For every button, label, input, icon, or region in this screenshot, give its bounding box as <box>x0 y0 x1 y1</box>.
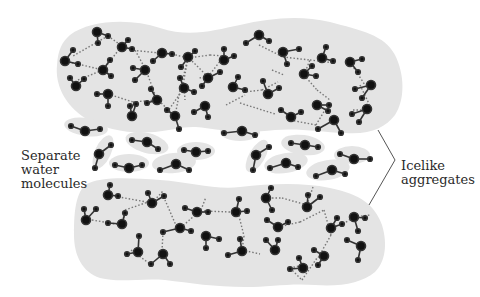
icelike-aggregates-label: Icelike aggregates <box>401 159 475 187</box>
separate-water-molecules-label: Separate water molecules <box>21 149 87 191</box>
label-line: molecules <box>21 177 87 191</box>
bracket-line <box>369 130 395 205</box>
label-line: aggregates <box>401 173 475 187</box>
label-line: water <box>21 163 87 177</box>
label-line: Separate <box>21 149 87 163</box>
label-line: Icelike <box>401 159 475 173</box>
water-structure-diagram: Separate water molecules Icelike aggrega… <box>0 0 480 297</box>
